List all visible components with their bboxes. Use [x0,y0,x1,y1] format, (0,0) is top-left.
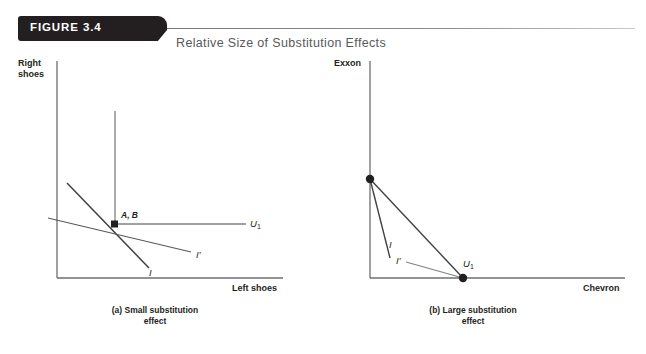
panel-a-caption: (a) Small substitution effect [60,305,250,327]
panel-a-curve-label-u1-subscript: 1 [257,223,261,230]
panel-b-point-a-marker [366,175,374,183]
panel-a-curve-u1 [115,111,246,224]
panel-b-curve-label-u1: U1 [463,258,474,270]
panel-a-budget-label-i: I [149,267,152,278]
panel-a-budget-label-i-prime: I′ [196,249,200,260]
figure-badge-label: FIGURE 3.4 [30,21,102,33]
panel-b-y-axis-label: Exxon [334,58,361,69]
figure-header: FIGURE 3.4 Relative Size of Substitution… [0,16,646,46]
panel-a: Right shoes Left shoes A, B U1 I I′ (a) … [0,55,320,295]
panel-b: Exxon Chevron U1 I I′ (b) Large substitu… [320,55,646,295]
panel-b-plot [320,55,646,295]
panel-a-point-ab-marker [111,221,118,228]
panel-b-budget-line-i [370,179,390,258]
panel-a-plot [0,55,320,295]
panel-b-caption: (b) Large substitution effect [378,305,568,327]
panel-b-curve-label-u1-subscript: 1 [470,263,474,270]
panel-a-y-axis-label: Right shoes [18,58,44,79]
panel-b-budget-label-i: I [389,239,392,250]
panel-b-curve-u1 [370,179,463,278]
panel-b-x-axis-label: Chevron [583,283,620,294]
figure-page: FIGURE 3.4 Relative Size of Substitution… [0,0,646,354]
panel-b-budget-line-i-prime [406,262,463,278]
panel-a-budget-line-i-prime [48,218,191,252]
panel-a-point-label-ab: A, B [121,210,138,220]
panel-b-curve-label-u1-base: U [463,258,470,269]
figure-badge-tab-tail [143,16,167,41]
panel-a-x-axis-label: Left shoes [232,283,277,294]
panel-b-point-b-marker [459,274,467,282]
panel-a-curve-label-u1: U1 [250,218,261,230]
panel-b-budget-label-i-prime: I′ [396,255,400,266]
figure-title: Relative Size of Substitution Effects [176,36,386,50]
panel-a-curve-label-u1-base: U [250,218,257,229]
